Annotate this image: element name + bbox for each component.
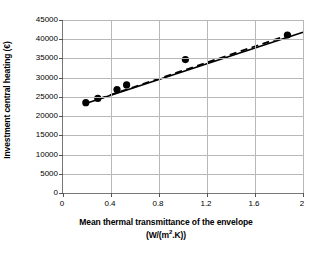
gridline-vertical [303, 20, 304, 193]
gridline-vertical [159, 20, 160, 193]
x-axis-title-line2: (W/(m2.K)) [30, 229, 302, 242]
gridline-horizontal [63, 78, 303, 79]
y-axis-tick-mark [59, 174, 63, 175]
plot-area [62, 20, 303, 194]
y-axis-tick-label: 15000 [16, 131, 58, 139]
y-axis-tick-label: 30000 [16, 74, 58, 82]
gridline-vertical [207, 20, 208, 193]
data-point-marker [182, 56, 189, 63]
y-axis-tick-label: 10000 [16, 151, 58, 159]
y-axis-tick-label: 40000 [16, 35, 58, 43]
data-point-marker [123, 81, 130, 88]
data-point-marker [284, 31, 291, 38]
gridline-horizontal [63, 20, 303, 21]
x-axis-tick-mark [111, 193, 112, 197]
gridline-vertical [111, 20, 112, 193]
x-axis-tick-mark [207, 193, 208, 197]
x-axis-tick-mark [303, 193, 304, 197]
chart-container: Investment central heating (€) 450004000… [0, 0, 315, 257]
x-axis-tick-label: 2 [282, 199, 315, 209]
gridline-horizontal [63, 58, 303, 59]
gridline-horizontal [63, 97, 303, 98]
y-axis-tick-mark [59, 116, 63, 117]
data-point-marker [82, 99, 89, 106]
x-axis-unit-prefix: (W/(m [146, 230, 169, 240]
y-axis-tick-label: 5000 [16, 170, 58, 178]
y-axis-tick-mark [59, 155, 63, 156]
gridline-vertical [255, 20, 256, 193]
y-axis-tick-mark [59, 78, 63, 79]
x-axis-title: Mean thermal transmittance of the envelo… [30, 216, 302, 242]
x-axis-tick-mark [255, 193, 256, 197]
gridline-horizontal [63, 155, 303, 156]
x-axis-tick-label: 1.6 [234, 199, 274, 209]
gridline-horizontal [63, 116, 303, 117]
y-axis-title: Investment central heating (€) [0, 0, 14, 200]
x-axis-title-line1: Mean thermal transmittance of the envelo… [79, 217, 252, 227]
gridline-horizontal [63, 39, 303, 40]
y-axis-tick-labels: 4500040000350003000025000200001500010000… [16, 14, 58, 194]
y-axis-tick-label: 0 [16, 189, 58, 197]
x-axis-tick-mark [159, 193, 160, 197]
y-axis-tick-mark [59, 58, 63, 59]
x-axis-tick-label: 0.4 [90, 199, 130, 209]
x-axis-tick-label: 0.8 [138, 199, 178, 209]
y-axis-tick-label: 25000 [16, 93, 58, 101]
series-layer [63, 20, 303, 193]
y-axis-tick-mark [59, 20, 63, 21]
y-axis-tick-label: 45000 [16, 16, 58, 24]
plot-inner [63, 20, 303, 193]
x-axis-tick-mark [63, 193, 64, 197]
x-axis-tick-labels: 00.40.81.21.62 [62, 199, 302, 211]
x-axis-tick-label: 1.2 [186, 199, 226, 209]
y-axis-tick-label: 20000 [16, 112, 58, 120]
trend-lines [83, 32, 303, 104]
x-axis-tick-label: 0 [42, 199, 82, 209]
x-axis-unit-suffix: .K)) [172, 230, 186, 240]
gridline-horizontal [63, 174, 303, 175]
y-axis-tick-mark [59, 39, 63, 40]
y-axis-tick-mark [59, 135, 63, 136]
y-axis-tick-label: 35000 [16, 54, 58, 62]
data-point-marker [113, 86, 120, 93]
y-axis-tick-mark [59, 97, 63, 98]
gridline-horizontal [63, 135, 303, 136]
